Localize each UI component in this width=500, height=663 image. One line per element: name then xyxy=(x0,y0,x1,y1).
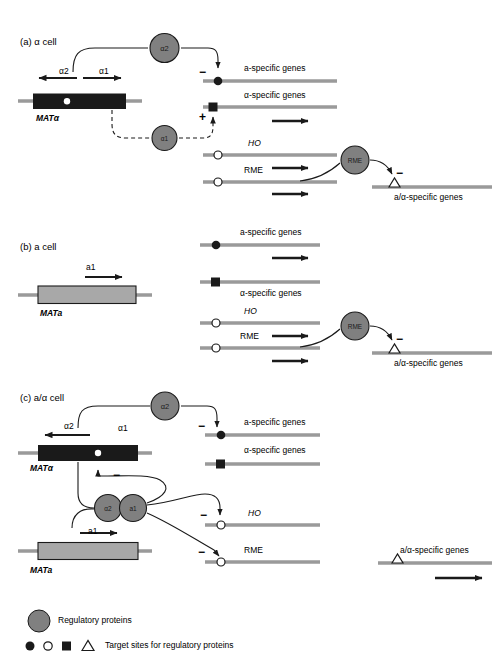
panel-a-target-label-alpha-specific: α-specific genes xyxy=(244,91,306,100)
panel-a-site-filled-circle xyxy=(214,77,223,86)
panel-c-transcript-label-a1: a1 xyxy=(88,527,97,536)
panel-c-title: (c) a/α cell xyxy=(20,393,64,403)
panel-b-site-open-circle-ho xyxy=(212,319,220,327)
panel-c-repress-rme-arc xyxy=(147,513,219,556)
panel-b-rme-arc-out xyxy=(370,326,392,340)
panel-c-target-label-a-specific: a-specific genes xyxy=(244,418,305,427)
panel-b-rme-arc-in xyxy=(300,329,340,347)
panel-b-site-filled-square xyxy=(211,278,220,287)
panel-c-target-label-a-alpha: a/α-specific genes xyxy=(400,546,469,555)
panel-b-target-label-a-alpha: a/α-specific genes xyxy=(394,359,463,368)
panel-c-target-label-alpha-specific: α-specific genes xyxy=(244,446,306,455)
panel-c-protein-alpha2-dimer-label: α2 xyxy=(104,505,112,512)
panel-a-title: (a) α cell xyxy=(20,37,57,47)
panel-c-mat-a-box xyxy=(38,543,138,560)
panel-a-site-open-circle-rme xyxy=(214,178,222,186)
mat-alpha-marker xyxy=(64,98,70,104)
legend-open-triangle-icon xyxy=(82,641,94,651)
panel-a-protein-alpha2-label: α2 xyxy=(160,44,169,53)
panel-b-title: (b) a cell xyxy=(20,242,56,252)
panel-a-protein-rme-label: RME xyxy=(348,157,363,164)
panel-b-target-label-rme: RME xyxy=(240,332,259,341)
panel-b-sign-a-alpha: − xyxy=(396,333,403,345)
panel-c-alpha2-arc-left xyxy=(78,406,150,428)
panel-b-target-label-ho: HO xyxy=(244,307,257,316)
panel-c-site-open-triangle xyxy=(392,554,403,563)
panel-a-sign-a-alpha: − xyxy=(396,167,403,179)
panel-c-protein-alpha2-top-label: α2 xyxy=(161,402,170,411)
mat-a-box xyxy=(38,286,136,304)
legend-filled-square-icon xyxy=(62,642,71,651)
panel-b-site-filled-circle xyxy=(212,241,221,250)
panel-a-transcript-label-alpha2: α2 xyxy=(59,67,69,76)
panel-a-transcript-label-alpha1: α1 xyxy=(99,67,109,76)
panel-b-transcript-label-a1: a1 xyxy=(86,263,95,272)
panel-a-mat-alpha-locus xyxy=(18,78,142,109)
panel-c-target-label-rme: RME xyxy=(244,546,263,555)
panel-c-site-filled-square xyxy=(216,460,225,469)
panel-c-repress-ho-arc xyxy=(147,494,220,515)
legend-label-proteins: Regulatory proteins xyxy=(58,616,132,625)
panel-a-sign-a-specific: − xyxy=(199,66,206,78)
panel-a-locus-label: MATα xyxy=(36,114,59,123)
panel-a-target-label-a-specific: a-specific genes xyxy=(244,64,305,73)
panel-a-alpha1-arc-right xyxy=(179,117,213,138)
legend-open-circle-icon xyxy=(44,642,52,650)
panel-c-sign-alpha1-repression: − xyxy=(113,469,120,481)
panel-c-sign-a-specific: − xyxy=(198,420,205,432)
panel-c-site-filled-circle xyxy=(217,431,226,440)
panel-c-target-label-ho: HO xyxy=(248,509,261,518)
legend-filled-circle-icon xyxy=(26,642,35,651)
panel-c-site-open-circle-ho xyxy=(217,521,225,529)
panel-c-sign-ho: − xyxy=(200,509,207,521)
panel-a-sign-alpha-specific: + xyxy=(199,111,206,123)
panel-b-target-label-alpha-specific: α-specific genes xyxy=(240,289,302,298)
panel-c-transcript-label-alpha2: α2 xyxy=(64,422,74,431)
panel-a-alpha2-arc-left xyxy=(73,48,148,72)
panel-c-mat-alpha-marker xyxy=(95,450,101,456)
panel-b-protein-rme-label: RME xyxy=(348,323,363,330)
panel-c-site-open-circle-rme xyxy=(217,558,225,566)
panel-a-site-open-circle-ho xyxy=(214,151,222,159)
panel-a-alpha1-arc-left xyxy=(112,110,150,138)
panel-b-site-open-circle-rme xyxy=(212,344,220,352)
panel-c-locus-label-alpha: MATα xyxy=(30,464,53,473)
panel-a-rme-arc-in xyxy=(300,163,340,181)
panel-c-mat-alpha-locus xyxy=(18,435,152,461)
panel-c-transcript-label-alpha1: α1 xyxy=(118,424,128,433)
mat-alpha-box xyxy=(33,94,126,110)
panel-a-target-label-ho: HO xyxy=(248,139,261,148)
panel-a-site-filled-square xyxy=(209,103,218,112)
panel-c-mat-alpha-box xyxy=(38,445,138,461)
panel-b-mat-a-locus xyxy=(18,277,152,304)
panel-a-protein-alpha1-label: α1 xyxy=(161,135,169,142)
panel-b: RME xyxy=(18,241,492,361)
panel-c-protein-a1-dimer-label: a1 xyxy=(129,505,137,512)
panel-a-target-label-rme: RME xyxy=(244,166,263,175)
panel-a-target-label-a-alpha: a/α-specific genes xyxy=(394,193,463,202)
legend-label-target-sites: Target sites for regulatory proteins xyxy=(105,641,234,650)
panel-c-sign-rme: − xyxy=(198,546,205,558)
panel-c-locus-label-a: MATa xyxy=(30,566,52,575)
panel-b-locus-label: MATa xyxy=(40,309,62,318)
legend-grey-circle-icon xyxy=(28,610,50,632)
panel-b-target-label-a-specific: a-specific genes xyxy=(240,228,301,237)
panel-a-rme-arc-out xyxy=(370,160,392,174)
panel-c-alpha2-feeder xyxy=(78,462,94,508)
panel-c-mat-a-locus xyxy=(18,533,152,560)
